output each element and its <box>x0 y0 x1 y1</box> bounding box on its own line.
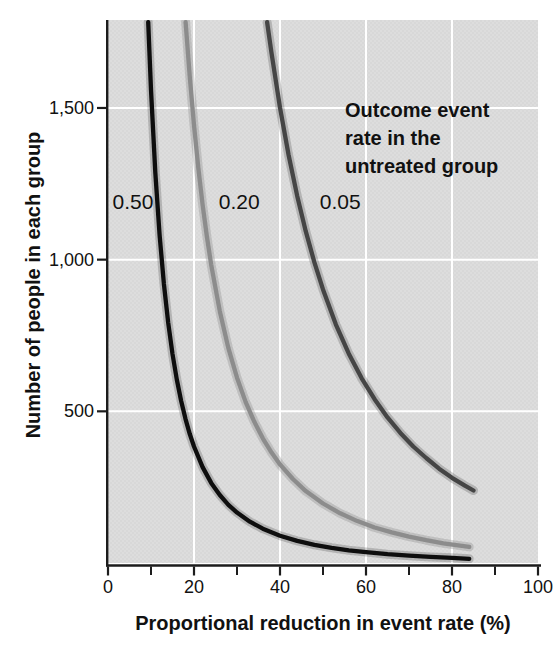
curve-label-0.20: 0.20 <box>219 190 260 213</box>
x-tick-label: 0 <box>103 577 113 597</box>
x-tick-label: 40 <box>270 577 290 597</box>
curve-label-0.05: 0.05 <box>320 190 361 213</box>
x-tick-label: 100 <box>523 577 553 597</box>
sample-size-chart-figure: 0204060801005001,0001,5000.500.200.05 Nu… <box>0 0 558 645</box>
legend-line-3: untreated group <box>345 152 498 180</box>
legend-line-1: Outcome event <box>345 96 498 124</box>
x-tick-label: 60 <box>356 577 376 597</box>
x-tick-label: 80 <box>442 577 462 597</box>
legend-annotation: Outcome event rate in the untreated grou… <box>345 96 498 180</box>
y-tick-label: 1,000 <box>49 250 94 270</box>
x-axis-title: Proportional reduction in event rate (%) <box>108 612 538 635</box>
y-tick-label: 500 <box>64 401 94 421</box>
x-tick-label: 20 <box>184 577 204 597</box>
legend-line-2: rate in the <box>345 124 498 152</box>
curve-label-0.50: 0.50 <box>113 190 154 213</box>
y-tick-label: 1,500 <box>49 98 94 118</box>
y-axis-title: Number of people in each group <box>22 132 45 439</box>
